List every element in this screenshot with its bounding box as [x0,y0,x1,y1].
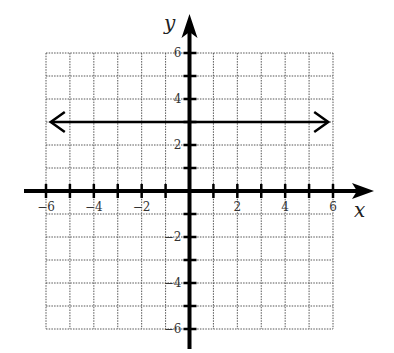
y-tick-label: −4 [164,276,182,290]
y-tick-label: −2 [164,230,182,244]
y-tick-label: 2 [174,138,182,152]
x-axis-label: x [354,198,365,222]
coordinate-plane: −6−4−2246642−2−4−6 x y [0,0,394,353]
x-tick-label: −6 [37,200,55,214]
x-tick-label: 4 [281,200,289,214]
x-tick-label: 6 [329,200,337,214]
y-tick-label: 4 [174,92,182,106]
y-axis-label: y [163,11,176,35]
y-tick-label: 6 [174,46,182,60]
x-tick-label: 2 [234,200,242,214]
x-tick-label: −4 [85,200,103,214]
x-tick-label: −2 [133,200,151,214]
axes [24,14,374,349]
y-tick-label: −6 [164,322,182,336]
